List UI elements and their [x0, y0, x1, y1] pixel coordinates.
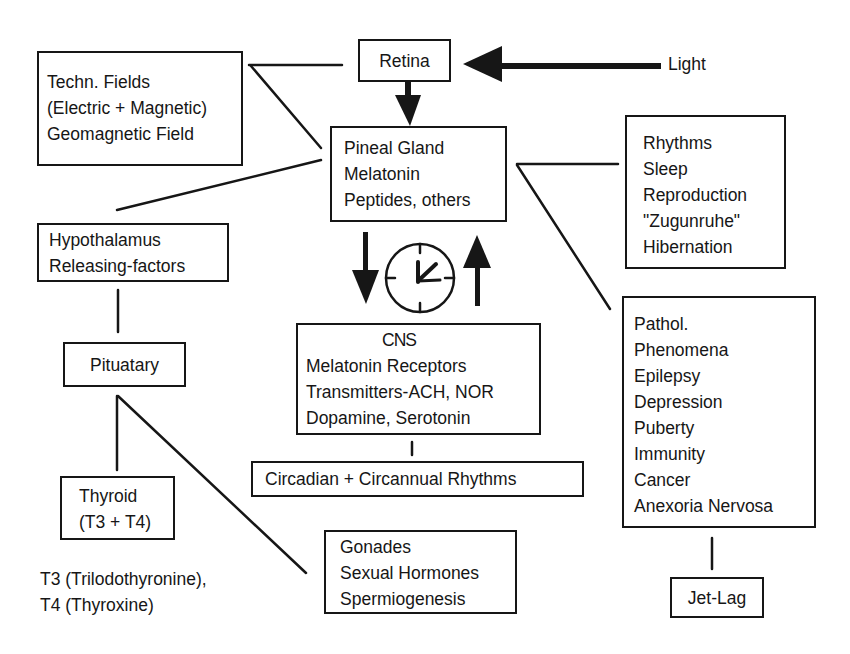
pathol-line-7: Cancer — [634, 467, 814, 493]
cns-line-4: Dopamine, Serotonin — [306, 405, 539, 431]
arrow-retina-to-pineal — [395, 81, 421, 126]
hypothalamus-line-1: Hypothalamus — [49, 227, 227, 253]
pineal-line-1: Pineal Gland — [344, 135, 505, 161]
arrow-cns-to-pineal — [463, 235, 491, 306]
connector-pineal-pathol — [517, 165, 610, 309]
cns-line-1: CNS — [306, 327, 539, 353]
pathol-line-4: Depression — [634, 389, 814, 415]
thyroid-line-1: Thyroid — [79, 483, 173, 509]
gonades-line-2: Sexual Hormones — [340, 560, 515, 586]
clock-icon — [386, 244, 454, 312]
connector-techn-pineal — [251, 66, 321, 148]
jet-lag-label: Jet-Lag — [672, 585, 762, 611]
pineal-line-2: Melatonin — [344, 161, 505, 187]
cns-line-3: Transmitters-ACH, NOR — [306, 379, 539, 405]
hypothalamus-box: Hypothalamus Releasing-factors — [37, 223, 229, 282]
rhythms-line-3: Reproduction — [643, 182, 784, 208]
pathol-line-8: Anexoria Nervosa — [634, 493, 814, 519]
rhythms-line-5: Hibernation — [643, 234, 784, 260]
thyroid-note-line-2: T4 (Thyroxine) — [40, 592, 207, 618]
pathol-line-6: Immunity — [634, 441, 814, 467]
cns-line-2: Melatonin Receptors — [306, 353, 539, 379]
rhythms-line-4: "Zugunruhe" — [643, 208, 784, 234]
retina-box: Retina — [358, 39, 451, 82]
arrow-light-to-retina — [463, 46, 661, 82]
gonades-box: Gonades Sexual Hormones Spermiogenesis — [324, 530, 517, 614]
thyroid-line-2: (T3 + T4) — [79, 509, 173, 535]
techn-fields-box: Techn. Fields (Electric + Magnetic) Geom… — [37, 51, 243, 166]
rhythms-line-1: Rhythms — [643, 130, 784, 156]
hypothalamus-line-2: Releasing-factors — [49, 253, 227, 279]
techn-fields-line-2: (Electric + Magnetic) — [47, 95, 241, 121]
arrow-pineal-to-cns — [352, 232, 379, 304]
rhythms-line-2: Sleep — [643, 156, 784, 182]
thyroid-note-line-1: T3 (Trilodothyronine), — [40, 566, 207, 592]
gonades-line-1: Gonades — [340, 534, 515, 560]
connector-pineal-hypothalamus — [117, 160, 321, 210]
circadian-rhythms-box: Circadian + Circannual Rhythms — [251, 461, 584, 497]
pineal-gland-box: Pineal Gland Melatonin Peptides, others — [330, 126, 507, 222]
pathol-line-2: Phenomena — [634, 337, 814, 363]
retina-label: Retina — [360, 48, 449, 74]
cns-box: CNS Melatonin Receptors Transmitters-ACH… — [296, 323, 541, 435]
pituatary-box: Pituatary — [63, 342, 186, 387]
pathol-line-3: Epilepsy — [634, 363, 814, 389]
rhythms-box: Rhythms Sleep Reproduction "Zugunruhe" H… — [625, 115, 786, 269]
techn-fields-line-3: Geomagnetic Field — [47, 121, 241, 147]
light-label: Light — [668, 51, 706, 77]
gonades-line-3: Spermiogenesis — [340, 586, 515, 612]
pathol-line-5: Puberty — [634, 415, 814, 441]
pathol-line-1: Pathol. — [634, 311, 814, 337]
jet-lag-box: Jet-Lag — [670, 577, 764, 618]
circadian-label: Circadian + Circannual Rhythms — [265, 466, 582, 492]
techn-fields-line-1: Techn. Fields — [47, 69, 241, 95]
thyroid-hormone-note: T3 (Trilodothyronine), T4 (Thyroxine) — [40, 566, 207, 618]
pituatary-label: Pituatary — [65, 352, 184, 378]
thyroid-box: Thyroid (T3 + T4) — [60, 476, 175, 540]
pineal-line-3: Peptides, others — [344, 187, 505, 213]
pathol-phenomena-box: Pathol. Phenomena Epilepsy Depression Pu… — [622, 296, 816, 528]
